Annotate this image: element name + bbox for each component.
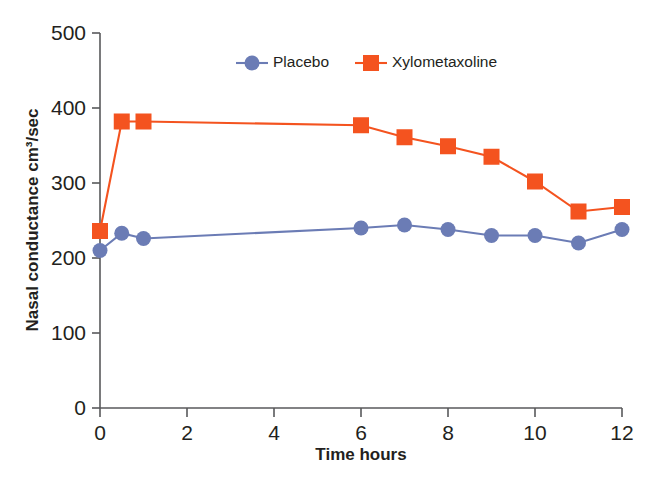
data-point-marker bbox=[440, 138, 456, 154]
data-point-marker bbox=[571, 236, 586, 251]
chart-legend: PlaceboXylometaxoline bbox=[236, 53, 497, 71]
data-point-marker bbox=[527, 174, 543, 190]
x-tick-group: 024681012 bbox=[94, 408, 634, 444]
series-line-xylometaxoline bbox=[100, 122, 622, 232]
x-axis-title: Time hours bbox=[315, 445, 406, 464]
data-point-marker bbox=[93, 243, 108, 258]
data-point-marker bbox=[571, 204, 587, 220]
data-point-marker bbox=[528, 228, 543, 243]
data-point-marker bbox=[397, 218, 412, 233]
line-chart: 0100200300400500 024681012 PlaceboXylome… bbox=[0, 0, 657, 481]
data-point-marker bbox=[92, 223, 108, 239]
data-point-marker bbox=[136, 114, 152, 130]
x-tick-label: 8 bbox=[442, 421, 454, 444]
data-point-marker bbox=[354, 221, 369, 236]
data-point-marker bbox=[397, 129, 413, 145]
data-point-marker bbox=[136, 231, 151, 246]
x-tick-label: 2 bbox=[181, 421, 193, 444]
y-tick-label: 400 bbox=[51, 96, 86, 119]
data-point-marker bbox=[114, 226, 129, 241]
y-tick-label: 100 bbox=[51, 321, 86, 344]
y-tick-label: 300 bbox=[51, 171, 86, 194]
y-tick-label: 0 bbox=[74, 396, 86, 419]
y-tick-group: 0100200300400500 bbox=[51, 21, 100, 419]
legend-marker-1 bbox=[363, 55, 379, 71]
data-point-marker bbox=[484, 228, 499, 243]
x-tick-label: 6 bbox=[355, 421, 367, 444]
chart-figure: 0100200300400500 024681012 PlaceboXylome… bbox=[0, 0, 657, 481]
data-point-marker bbox=[484, 149, 500, 165]
data-point-marker bbox=[614, 199, 630, 215]
x-tick-label: 10 bbox=[523, 421, 546, 444]
y-axis-title: Nasal conductance cm³/sec bbox=[23, 109, 42, 332]
y-tick-label: 500 bbox=[51, 21, 86, 44]
data-point-marker bbox=[615, 222, 630, 237]
x-tick-label: 12 bbox=[610, 421, 633, 444]
y-tick-label: 200 bbox=[51, 246, 86, 269]
legend-label-0: Placebo bbox=[273, 53, 329, 70]
series-group bbox=[92, 114, 630, 259]
data-point-marker bbox=[353, 117, 369, 133]
legend-marker-0 bbox=[245, 56, 260, 71]
legend-label-1: Xylometaxoline bbox=[392, 53, 497, 70]
x-tick-label: 4 bbox=[268, 421, 280, 444]
data-point-marker bbox=[114, 114, 130, 130]
x-tick-label: 0 bbox=[94, 421, 106, 444]
data-point-marker bbox=[441, 222, 456, 237]
